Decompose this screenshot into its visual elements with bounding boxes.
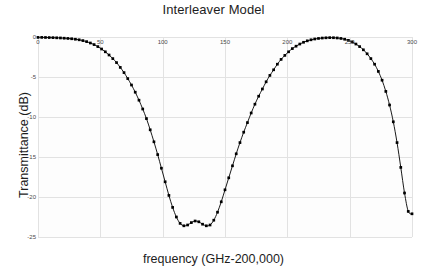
data-point-marker (224, 188, 227, 191)
data-point-marker (145, 117, 148, 120)
x-axis-tick-label: 50 (97, 39, 104, 46)
data-point-marker (242, 131, 245, 134)
data-point-marker (115, 61, 118, 64)
data-point-marker (119, 66, 122, 69)
data-point-marker (179, 222, 182, 225)
data-point-marker (141, 108, 144, 111)
chart-title: Interleaver Model (0, 2, 427, 18)
data-point-marker (138, 99, 141, 102)
y-axis-tick-label: -15 (27, 154, 36, 161)
data-point-marker (52, 36, 55, 39)
x-axis-tick-label: 300 (407, 39, 417, 46)
data-point-marker (384, 90, 387, 93)
data-point-marker (280, 58, 283, 61)
data-point-marker (194, 220, 197, 223)
y-axis-tick-label: -5 (31, 74, 36, 81)
data-point-marker (276, 63, 279, 66)
data-point-marker (183, 224, 186, 227)
data-point-marker (201, 223, 204, 226)
y-axis-tick-label: -20 (27, 194, 36, 201)
data-point-marker (209, 224, 212, 227)
data-point-marker (149, 128, 152, 131)
data-point-marker (269, 74, 272, 77)
data-point-marker (366, 52, 369, 55)
data-point-marker (231, 164, 234, 167)
data-point-marker (370, 57, 373, 60)
data-point-marker (216, 211, 219, 214)
data-point-marker (55, 36, 58, 39)
data-point-marker (59, 37, 62, 40)
data-point-marker (123, 71, 126, 74)
data-point-marker (317, 37, 320, 40)
data-point-marker (381, 79, 384, 82)
data-point-marker (235, 152, 238, 155)
data-point-marker (134, 91, 137, 94)
data-point-marker (82, 39, 85, 42)
data-point-marker (388, 104, 391, 107)
data-point-marker (396, 141, 399, 144)
data-point-marker (220, 200, 223, 203)
data-point-marker (321, 37, 324, 40)
data-point-marker (355, 43, 358, 46)
x-axis-tick-label: 100 (158, 39, 168, 46)
data-point-marker (272, 68, 275, 71)
data-point-marker (93, 43, 96, 46)
data-point-marker (168, 194, 171, 197)
data-series-line (38, 37, 412, 237)
gridline-vertical (412, 37, 413, 237)
x-axis-tick-label: 250 (345, 39, 355, 46)
data-point-marker (239, 141, 242, 144)
data-point-marker (160, 167, 163, 170)
data-point-marker (377, 70, 380, 73)
data-point-marker (164, 180, 167, 183)
x-axis-tick-label: 0 (36, 39, 39, 46)
data-point-marker (246, 121, 249, 124)
data-point-marker (325, 36, 328, 39)
data-point-marker (362, 48, 365, 51)
data-point-marker (302, 41, 305, 44)
data-point-marker (254, 103, 257, 106)
data-point-marker (78, 38, 81, 41)
y-axis-tick-label: -10 (27, 114, 36, 121)
data-point-marker (190, 221, 193, 224)
data-point-marker (340, 37, 343, 40)
y-axis-tick-labels: 0-5-10-15-20-25 (0, 0, 36, 280)
data-point-marker (306, 39, 309, 42)
data-point-marker (261, 88, 264, 91)
data-point-marker (403, 192, 406, 195)
x-axis-tick-label: 150 (220, 39, 230, 46)
chart-figure: Interleaver Model Transmittance (dB) 0-5… (0, 0, 427, 280)
data-point-marker (407, 210, 410, 213)
data-point-marker (358, 45, 361, 48)
data-point-marker (175, 216, 178, 219)
data-point-marker (108, 54, 111, 57)
data-point-marker (257, 95, 260, 98)
data-point-marker (85, 40, 88, 43)
data-point-marker (67, 37, 70, 40)
gridline-horizontal (38, 237, 412, 238)
data-point-marker (313, 38, 316, 41)
data-point-marker (197, 220, 200, 223)
data-point-marker (40, 36, 43, 39)
data-point-marker (130, 84, 133, 87)
x-axis-tick-label: 200 (282, 39, 292, 46)
y-axis-tick-label: -25 (27, 234, 36, 241)
data-point-marker (44, 36, 47, 39)
data-point-marker (295, 45, 298, 48)
data-point-marker (63, 37, 66, 40)
data-point-marker (70, 37, 73, 40)
data-point-marker (283, 54, 286, 57)
data-point-marker (298, 43, 301, 46)
data-point-marker (74, 38, 77, 41)
data-point-marker (328, 36, 331, 39)
data-point-marker (48, 36, 51, 39)
data-point-marker (104, 50, 107, 53)
data-point-marker (156, 153, 159, 156)
data-point-marker (392, 120, 395, 123)
data-point-marker (100, 48, 103, 51)
data-point-marker (126, 77, 129, 80)
plot-area (38, 37, 412, 237)
data-point-marker (111, 57, 114, 60)
data-point-marker (186, 224, 189, 227)
data-point-marker (411, 212, 414, 215)
